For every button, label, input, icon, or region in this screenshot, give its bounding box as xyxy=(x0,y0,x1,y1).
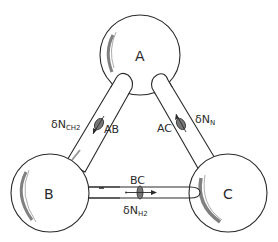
sphere-b: B xyxy=(11,154,89,232)
flux-label-ac: δNN xyxy=(195,113,215,127)
svg-text:δNCH2: δNCH2 xyxy=(51,118,81,132)
node-label-a: A xyxy=(135,48,145,64)
flux-label-ab: δNCH2 xyxy=(51,118,81,132)
edge-label-ab: AB xyxy=(104,123,119,136)
edge-label-bc: BC xyxy=(130,174,145,187)
svg-text:δNN: δNN xyxy=(195,113,215,127)
svg-text:δNH2: δNH2 xyxy=(123,204,148,218)
node-label-c: C xyxy=(223,186,233,202)
diffusion-diagram: A B C AB AC BC xyxy=(0,0,278,242)
node-label-b: B xyxy=(44,186,54,202)
sphere-c: C xyxy=(189,154,267,232)
edge-label-ac: AC xyxy=(157,122,172,135)
flux-label-bc: δNH2 xyxy=(123,204,148,218)
